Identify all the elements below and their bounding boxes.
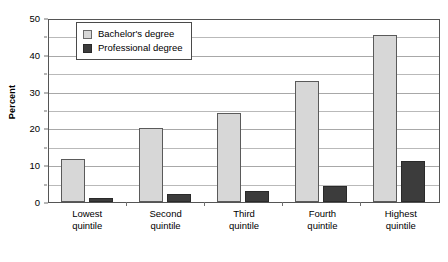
y-tick-mark-minor [44,111,47,112]
x-tick-mark [126,202,127,206]
x-axis-label-line: Third [205,208,283,220]
y-tick-label: 40 [29,51,40,61]
x-axis-label-line: quintile [283,220,361,232]
x-axis-label: Highestquintile [362,208,440,232]
x-tick-mark [282,202,283,206]
x-axis-label: Thirdquintile [205,208,283,232]
y-tick-label: 30 [29,88,40,98]
x-axis-label-line: quintile [362,220,440,232]
bar-chart: Percent 01020304050 Bachelor's degree Pr… [0,0,448,262]
legend-label-bachelors: Bachelor's degree [98,29,174,39]
x-axis-label: Secondquintile [126,208,204,232]
x-axis-label-line: quintile [205,220,283,232]
y-tick-mark-minor [44,74,47,75]
y-tick-mark-minor [44,147,47,148]
x-axis-label: Lowestquintile [48,208,126,232]
bar-professional [245,191,269,202]
y-axis-title: Percent [2,0,22,203]
y-tick-mark-minor [44,37,47,38]
y-tick-label: 0 [35,198,40,208]
x-axis-label-line: Fourth [283,208,361,220]
bar-group [205,19,283,202]
x-axis-label-line: Lowest [48,208,126,220]
x-axis-labels: LowestquintileSecondquintileThirdquintil… [48,208,440,232]
bar-bachelors [61,159,85,202]
bar-group [283,19,361,202]
x-axis-label-line: Highest [362,208,440,220]
x-axis-label-line: quintile [126,220,204,232]
bar-bachelors [373,35,397,202]
x-axis-label-line: Second [126,208,204,220]
y-axis-ticks: 01020304050 [20,19,44,203]
y-tick-label: 10 [29,161,40,171]
x-tick-mark [360,202,361,206]
bar-bachelors [295,81,319,202]
legend-label-professional: Professional degree [98,43,183,53]
y-tick-label: 20 [29,125,40,135]
legend-item-bachelors: Bachelor's degree [83,27,183,41]
y-tick-label: 50 [29,14,40,24]
y-axis-title-text: Percent [7,84,17,118]
legend-swatch-icon-professional [83,44,92,53]
bar-bachelors [139,128,163,202]
x-tick-mark [204,202,205,206]
bar-professional [89,198,113,202]
legend-item-professional: Professional degree [83,41,183,55]
x-axis-label-line: quintile [48,220,126,232]
bar-professional [401,161,425,202]
bar-professional [167,194,191,202]
bar-bachelors [217,113,241,202]
x-axis-label: Fourthquintile [283,208,361,232]
legend-swatch-icon-bachelors [83,30,92,39]
y-tick-mark-minor [44,184,47,185]
bar-professional [323,186,347,202]
bar-group [361,19,439,202]
chart-legend: Bachelor's degree Professional degree [76,22,192,60]
